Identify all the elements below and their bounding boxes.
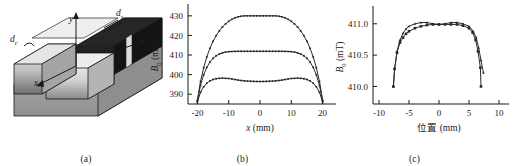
data-point	[259, 15, 261, 17]
data-point	[287, 19, 289, 21]
data-point	[243, 50, 245, 52]
data-point	[275, 50, 277, 52]
data-point	[222, 52, 224, 54]
data-point	[272, 80, 274, 82]
data-point	[272, 50, 274, 52]
dim-dc-label: dc	[10, 34, 18, 46]
data-point	[212, 79, 214, 81]
data-point	[209, 61, 211, 63]
data-point	[262, 50, 264, 52]
data-point	[243, 15, 245, 17]
data-point	[480, 85, 483, 88]
data-point	[480, 59, 483, 61]
x-tick-label: -10	[223, 108, 235, 118]
data-point	[269, 80, 271, 82]
data-point	[265, 15, 267, 17]
curve-curve-top	[197, 16, 322, 100]
data-point	[256, 15, 258, 17]
data-point	[482, 71, 485, 73]
data-point	[237, 79, 239, 81]
data-point	[247, 50, 249, 52]
chart-c-field-uniformity: 410.0410.5411.0-10-50510B0 (mT)位置 (mm)	[313, 0, 516, 150]
data-point	[306, 58, 308, 60]
data-point	[234, 17, 236, 19]
data-point	[234, 51, 236, 53]
data-point	[297, 52, 299, 54]
data-point	[471, 31, 474, 34]
data-point	[278, 50, 280, 52]
data-point	[262, 81, 264, 83]
data-point	[309, 48, 311, 50]
data-point	[243, 80, 245, 82]
data-point	[256, 81, 258, 83]
data-point	[215, 35, 217, 37]
y-tick-label: 410	[170, 50, 184, 60]
data-point	[218, 30, 220, 32]
data-point	[237, 16, 239, 18]
data-point	[287, 51, 289, 53]
data-point	[303, 55, 305, 57]
figure-container: y x z dc ds (a) 390400410420430-20-10010…	[0, 0, 516, 166]
data-point	[290, 51, 292, 53]
data-point	[259, 50, 261, 52]
data-point	[479, 66, 482, 69]
data-point	[225, 51, 227, 53]
data-point	[269, 50, 271, 52]
x-tick-label: 0	[258, 108, 263, 118]
data-point	[228, 51, 230, 53]
data-point	[290, 20, 292, 22]
data-point	[297, 77, 299, 79]
axis-y-label: y	[68, 14, 74, 24]
x-tick-label: -5	[405, 108, 413, 118]
y-axis-title: B0 (mT)	[335, 42, 347, 73]
dim-ds-label: ds	[116, 8, 124, 20]
x-axis-title: x (mm)	[245, 123, 274, 134]
data-point	[250, 50, 252, 52]
data-point	[240, 50, 242, 52]
data-point	[247, 80, 249, 82]
data-point	[228, 78, 230, 80]
data-point	[294, 51, 296, 53]
data-point	[278, 80, 280, 82]
panel-c-chart: 410.0410.5411.0-10-50510B0 (mT)位置 (mm) (…	[313, 0, 516, 166]
data-point	[218, 77, 220, 79]
data-point	[197, 101, 199, 103]
data-point	[222, 77, 224, 79]
data-point	[284, 79, 286, 81]
data-point	[209, 48, 211, 50]
data-point	[456, 23, 459, 26]
data-point	[393, 68, 396, 71]
data-point	[250, 15, 252, 17]
y-tick-label: 400	[170, 70, 184, 80]
data-point	[212, 58, 214, 60]
data-point	[278, 15, 280, 17]
data-point	[477, 50, 480, 53]
data-point	[240, 15, 242, 17]
x-tick-label: 10	[287, 108, 297, 118]
data-point	[253, 81, 255, 83]
data-point	[231, 51, 233, 53]
y-axis-title: B0 (mT)	[150, 41, 162, 72]
data-point	[474, 39, 477, 42]
data-point	[284, 51, 286, 53]
caption-panel-c: (c)	[313, 154, 516, 164]
data-point	[300, 30, 302, 32]
data-point	[402, 36, 405, 39]
data-point	[432, 23, 435, 26]
data-point	[259, 81, 261, 83]
x-tick-label: 5	[467, 108, 472, 118]
data-point	[253, 15, 255, 17]
y-tick-label: 410.0	[348, 82, 369, 92]
data-point	[303, 35, 305, 37]
data-point	[203, 67, 205, 69]
data-point	[408, 30, 411, 33]
data-point	[250, 80, 252, 82]
data-point	[215, 55, 217, 57]
data-point	[290, 78, 292, 80]
data-point	[265, 81, 267, 83]
data-point	[284, 17, 286, 19]
y-tick-label: 411.0	[348, 19, 368, 29]
data-point	[294, 23, 296, 25]
data-point	[203, 74, 205, 76]
data-point	[206, 56, 208, 58]
